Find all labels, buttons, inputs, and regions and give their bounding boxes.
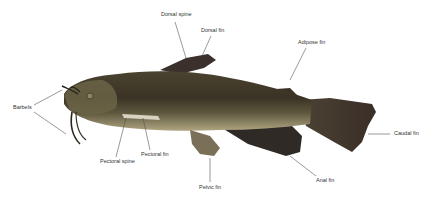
label-caudal-fin: Caudal fin (394, 131, 419, 137)
label-pectoral-spine: Pectoral spine (100, 159, 135, 165)
label-dorsal-spine: Dorsal spine (161, 12, 192, 18)
label-pectoral-fin: Pectoral fin (141, 152, 169, 158)
dorsal-fin-shape (160, 54, 216, 74)
pelvic-fin-shape (190, 130, 220, 156)
label-adipose-fin: Adipose fin (298, 40, 325, 46)
catfish-diagram: Dorsal spine Dorsal fin Adipose fin Barb… (0, 0, 432, 198)
label-pelvic-fin: Pelvic fin (199, 185, 221, 191)
eye (87, 93, 93, 99)
label-dorsal-fin: Dorsal fin (201, 28, 224, 34)
label-anal-fin: Anal fin (316, 178, 334, 184)
label-barbels: Barbels (13, 105, 32, 111)
